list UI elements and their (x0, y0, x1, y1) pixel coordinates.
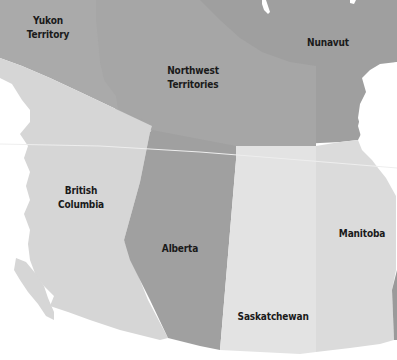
label-bc-line1: British (56, 184, 107, 198)
label-nwt-line2: Territories (158, 78, 229, 92)
region-manitoba[interactable] (316, 140, 396, 352)
label-bc-line2: Columbia (56, 198, 107, 212)
label-manitoba: Manitoba (336, 227, 388, 241)
label-yukon-line1: Yukon (23, 14, 72, 28)
label-yukon-line2: Territory (23, 28, 72, 42)
label-nwt-line1: Northwest (158, 64, 229, 78)
label-alberta: Alberta (155, 242, 204, 256)
label-manitoba-line1: Manitoba (336, 227, 388, 241)
label-saskatchewan: Saskatchewan (238, 310, 307, 324)
label-british-columbia: British Columbia (56, 184, 107, 212)
map-canvas (0, 0, 397, 360)
label-alberta-line1: Alberta (155, 242, 204, 256)
label-northwest-territories: Northwest Territories (158, 64, 229, 92)
label-nunavut-line1: Nunavut (303, 36, 352, 50)
canada-west-map: Yukon Territory Northwest Territories Nu… (0, 0, 397, 360)
label-saskatchewan-line1: Saskatchewan (238, 310, 307, 324)
label-nunavut: Nunavut (303, 36, 352, 50)
label-yukon: Yukon Territory (23, 14, 72, 42)
